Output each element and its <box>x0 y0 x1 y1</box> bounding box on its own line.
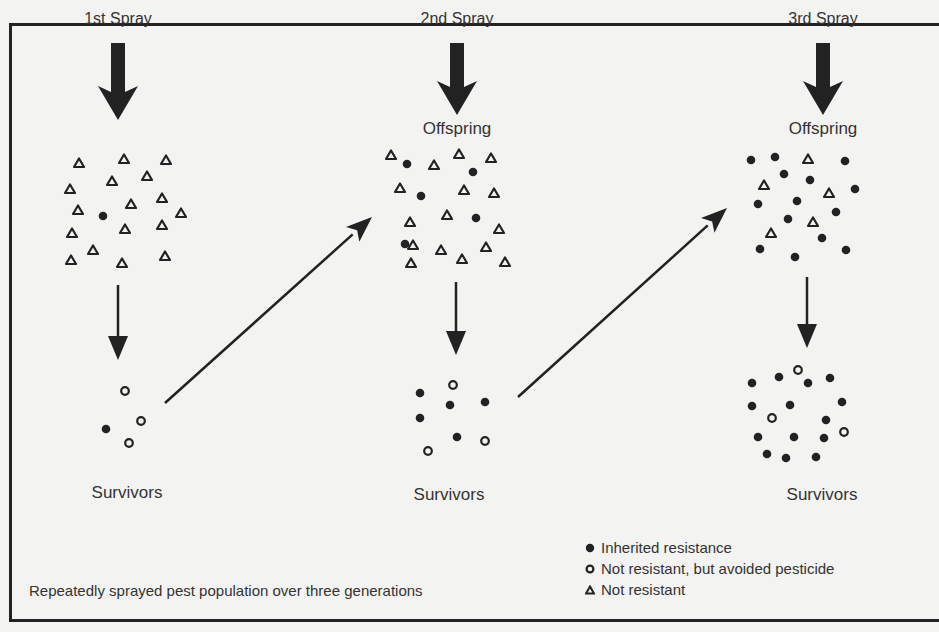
inherited-resistance-dot-icon <box>748 379 757 388</box>
inherited-resistance-dot-icon <box>832 208 841 217</box>
inherited-resistance-dot-icon <box>416 389 425 398</box>
avoided-pesticide-ring-icon <box>840 428 848 436</box>
not-resistant-triangle-icon <box>161 156 171 165</box>
inherited-resistance-dot-icon <box>747 156 756 165</box>
spray-label-2: 2nd Spray <box>421 10 494 28</box>
legend-item-avoided-pesticide: Not resistant, but avoided pesticide <box>585 558 834 579</box>
spray-label-3: 3rd Spray <box>788 10 857 28</box>
not-resistant-triangle-icon <box>459 186 469 195</box>
inherited-resistance-dot-icon <box>771 153 780 162</box>
avoided-pesticide-ring-icon <box>137 417 145 425</box>
inherited-resistance-dot-icon <box>754 200 763 209</box>
not-resistant-triangle-icon <box>88 246 98 255</box>
survivors-label-1: Survivors <box>92 483 163 503</box>
diagonal-arrow-shaft <box>518 225 708 397</box>
spray-arrow-icon <box>98 43 138 120</box>
inherited-resistance-dot-icon <box>838 398 847 407</box>
inherited-resistance-dot-icon <box>446 401 455 410</box>
not-resistant-triangle-icon <box>74 159 84 168</box>
inherited-resistance-dot-icon <box>791 253 800 262</box>
avoided-pesticide-ring-icon <box>424 447 432 455</box>
avoided-pesticide-ring-icon <box>768 414 776 422</box>
inherited-resistance-dot-icon <box>756 245 765 254</box>
not-resistant-triangle-icon <box>454 150 464 159</box>
inherited-resistance-dot-icon <box>401 240 410 249</box>
inherited-resistance-dot-icon <box>782 454 791 463</box>
inherited-resistance-dot-icon <box>851 185 860 194</box>
legend: Inherited resistance Not resistant, but … <box>585 537 834 600</box>
not-resistant-triangle-icon <box>142 172 152 181</box>
inherited-resistance-dot-icon <box>780 170 789 179</box>
avoided-pesticide-ring-icon <box>449 381 457 389</box>
not-resistant-triangle-icon <box>157 194 167 203</box>
diagonal-arrow-shaft <box>165 234 353 403</box>
inherited-resistance-dot-icon <box>403 160 412 169</box>
not-resistant-triangle-icon <box>405 218 415 227</box>
inherited-resistance-dot-icon <box>806 176 815 185</box>
inherited-resistance-dot-icon <box>748 402 757 411</box>
avoided-pesticide-ring-icon <box>121 387 129 395</box>
inherited-resistance-dot-icon <box>754 433 763 442</box>
survivors-label-2: Survivors <box>414 485 485 505</box>
down-arrow-icon <box>797 324 817 348</box>
not-resistant-triangle-icon <box>457 255 467 264</box>
inherited-resistance-dot-icon <box>417 192 426 201</box>
avoided-pesticide-ring-icon <box>125 439 133 447</box>
inherited-resistance-dot-icon <box>826 374 835 383</box>
legend-label: Not resistant, but avoided pesticide <box>601 560 834 577</box>
not-resistant-triangle-icon <box>489 189 499 198</box>
inherited-resistance-dot-icon <box>481 398 490 407</box>
not-resistant-triangle-icon <box>107 177 117 186</box>
inherited-resistance-dot-icon <box>453 433 462 442</box>
not-resistant-triangle-icon <box>395 184 405 193</box>
inherited-resistance-dot-icon <box>416 414 425 423</box>
spray-arrow-icon <box>437 43 477 115</box>
legend-item-not-resistant: Not resistant <box>585 579 834 600</box>
inherited-resistance-dot-icon <box>818 234 827 243</box>
not-resistant-triangle-icon <box>126 200 136 209</box>
open-circle-icon <box>585 564 595 574</box>
inherited-resistance-dot-icon <box>763 450 772 459</box>
not-resistant-triangle-icon <box>73 206 83 215</box>
not-resistant-triangle-icon <box>119 155 129 164</box>
inherited-resistance-dot-icon <box>842 246 851 255</box>
not-resistant-triangle-icon <box>442 211 452 220</box>
inherited-resistance-dot-icon <box>472 214 481 223</box>
legend-label: Not resistant <box>601 581 685 598</box>
not-resistant-triangle-icon <box>67 229 77 238</box>
inherited-resistance-dot-icon <box>102 425 111 434</box>
inherited-resistance-dot-icon <box>841 157 850 166</box>
not-resistant-triangle-icon <box>436 246 446 255</box>
avoided-pesticide-ring-icon <box>481 437 489 445</box>
down-arrow-icon <box>108 336 128 360</box>
inherited-resistance-dot-icon <box>820 434 829 443</box>
not-resistant-triangle-icon <box>808 218 818 227</box>
inherited-resistance-dot-icon <box>775 373 784 382</box>
not-resistant-triangle-icon <box>120 225 130 234</box>
down-arrow-icon <box>446 331 466 355</box>
not-resistant-triangle-icon <box>824 189 834 198</box>
not-resistant-triangle-icon <box>429 161 439 170</box>
offspring-label-2: Offspring <box>423 119 492 139</box>
not-resistant-triangle-icon <box>759 181 769 190</box>
not-resistant-triangle-icon <box>160 252 170 261</box>
not-resistant-triangle-icon <box>803 155 813 164</box>
offspring-label-3: Offspring <box>789 119 858 139</box>
inherited-resistance-dot-icon <box>786 401 795 410</box>
open-triangle-icon <box>585 585 595 595</box>
not-resistant-triangle-icon <box>66 256 76 265</box>
not-resistant-triangle-icon <box>500 258 510 267</box>
not-resistant-triangle-icon <box>486 154 496 163</box>
inherited-resistance-dot-icon <box>793 197 802 206</box>
survivors-label-3: Survivors <box>787 485 858 505</box>
avoided-pesticide-ring-icon <box>794 366 802 374</box>
inherited-resistance-dot-icon <box>822 416 831 425</box>
not-resistant-triangle-icon <box>481 243 491 252</box>
inherited-resistance-dot-icon <box>790 433 799 442</box>
inherited-resistance-dot-icon <box>812 453 821 462</box>
legend-label: Inherited resistance <box>601 539 732 556</box>
inherited-resistance-dot-icon <box>469 168 478 177</box>
not-resistant-triangle-icon <box>386 151 396 160</box>
spray-label-1: 1st Spray <box>84 10 152 28</box>
not-resistant-triangle-icon <box>157 221 167 230</box>
